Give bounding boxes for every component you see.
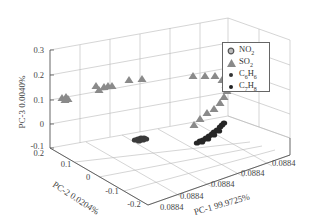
legend-item-c7h8: C7H8	[226, 81, 266, 93]
y-tick-label: -0.1	[105, 186, 118, 196]
y-tick-label: 0.1	[61, 159, 72, 169]
x-tick-label: 0.0884	[160, 202, 184, 212]
z-tick-label: 0.3	[33, 45, 44, 55]
x-tick-label: 0.0884	[211, 179, 235, 189]
y-axis-label: PC-2 0.0204%	[51, 179, 101, 217]
legend-label: C7H8	[239, 79, 257, 95]
so2-point	[125, 76, 134, 83]
so2-point	[220, 93, 229, 100]
so2-point	[201, 72, 210, 79]
pca-3d-scatter-plot: 0.3 0.2 0.1 0 -0.1 0.2 0.1 0 -0.1 -0.2 0…	[0, 0, 317, 224]
c7h8-series	[194, 120, 227, 145]
z-tick-label: 0.1	[33, 95, 44, 105]
so2-series	[58, 72, 232, 128]
c7h8-point	[211, 132, 217, 137]
z-axis-label: PC-3 0.0040%	[17, 75, 27, 129]
triangle-marker-icon	[226, 58, 236, 68]
so2-point	[210, 105, 219, 112]
z-tick-label: 0.2	[33, 70, 44, 80]
x-tick-label: 0.0884	[241, 168, 265, 178]
c7h8-point	[199, 139, 205, 144]
dot-marker-icon	[226, 70, 236, 80]
so2-point	[138, 75, 147, 82]
so2-point	[196, 115, 205, 122]
y-tick-label: 0	[86, 172, 90, 182]
c7h8-point	[221, 120, 227, 125]
z-tick-label: 0	[40, 119, 44, 129]
so2-point	[189, 72, 198, 79]
c7h8-point	[216, 128, 222, 133]
so2-point	[203, 109, 212, 116]
so2-point	[211, 72, 220, 79]
dot-marker-icon	[226, 82, 236, 92]
so2-point	[216, 99, 225, 106]
c7h8-point	[205, 136, 211, 141]
x-tick-label: 0.0884	[180, 191, 204, 201]
c6h6-series	[132, 135, 149, 143]
x-tick-label: 0.0884	[272, 158, 296, 168]
legend: NO2 SO2 C6H6 C7H8	[222, 42, 270, 92]
circle-open-marker-icon	[226, 46, 236, 56]
y-tick-label: -0.2	[127, 199, 140, 209]
c6h6-point	[136, 138, 142, 143]
so2-point	[190, 121, 199, 128]
y-tick-label: 0.2	[33, 148, 44, 158]
